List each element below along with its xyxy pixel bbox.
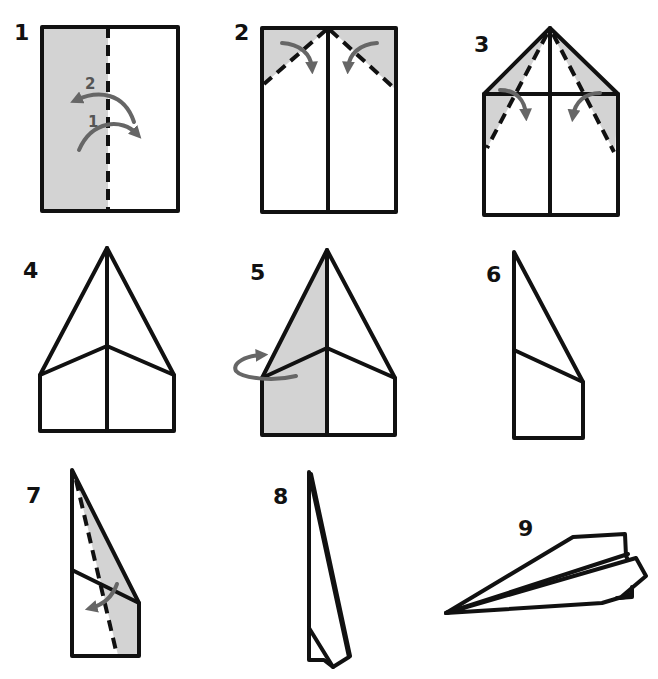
step-2-number: 2 [234, 20, 249, 45]
step-8: 8 [273, 472, 350, 667]
step-6-number: 6 [486, 262, 501, 287]
step-7-number: 7 [26, 483, 41, 508]
step-9: 9 [446, 516, 646, 613]
step-1: 1 2 1 [14, 20, 178, 211]
step-6: 6 [486, 252, 583, 438]
step-3-number: 3 [474, 32, 489, 57]
paper-outline [514, 252, 583, 438]
step-2: 2 [234, 20, 396, 212]
step-8-number: 8 [273, 484, 288, 509]
step-1-number: 1 [14, 20, 29, 45]
folding-diagram: 1 2 1 2 3 4 [0, 0, 658, 679]
step-5: 5 [235, 250, 395, 435]
step-9-number: 9 [518, 516, 533, 541]
shaded-wing [76, 478, 138, 655]
shaded-right-flap [550, 30, 618, 153]
step-3: 3 [474, 28, 618, 215]
step-7: 7 [26, 470, 139, 656]
arrow-label-2: 2 [85, 75, 95, 93]
shaded-left-half [262, 250, 327, 435]
step-4-number: 4 [23, 258, 38, 283]
step-4: 4 [23, 248, 174, 431]
step-5-number: 5 [250, 260, 265, 285]
